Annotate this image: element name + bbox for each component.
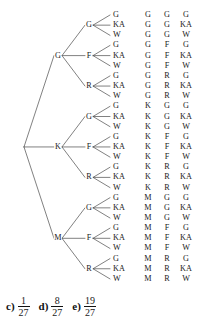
outcome-cell: KA xyxy=(180,204,192,212)
outcome-cell: G xyxy=(145,72,151,80)
outcome-cell: KA xyxy=(180,21,192,29)
outcome-cell: K xyxy=(145,112,151,120)
tree-leaf-label: W xyxy=(113,31,121,39)
outcome-cell: M xyxy=(144,204,151,212)
outcome-cell: G xyxy=(145,51,151,59)
outcome-cell: M xyxy=(144,194,151,202)
outcome-cell: F xyxy=(165,41,170,49)
outcome-cell: G xyxy=(164,123,170,131)
outcome-cell: F xyxy=(165,153,170,161)
outcome-cell: G xyxy=(164,194,170,202)
outcome-cell: F xyxy=(165,234,170,242)
outcome-cell: W xyxy=(182,275,190,283)
tree-leaf-label: KA xyxy=(113,173,125,181)
outcome-cell: G xyxy=(164,112,170,120)
tree-node-level1-1: K xyxy=(54,143,61,151)
outcome-cell: W xyxy=(182,214,190,222)
outcome-cell: K xyxy=(145,153,151,161)
outcome-cell: G xyxy=(145,41,151,49)
answer-choice-fraction: 1927 xyxy=(84,296,96,318)
outcome-cell: R xyxy=(164,183,169,191)
tree-node-level1-2: M xyxy=(54,234,62,242)
probability-tree-figure: GGFRKGFRMGFR GKAWGKAWGKAWGKAWGKAWGKAWGKA… xyxy=(0,0,202,296)
answer-choices-row: c)127d)827e)1927 xyxy=(0,293,202,320)
fraction-denominator: 27 xyxy=(18,307,30,318)
outcome-cell: M xyxy=(144,265,151,273)
outcome-cell: R xyxy=(164,254,169,262)
outcome-cell: F xyxy=(165,143,170,151)
tree-leaf-label: G xyxy=(113,224,119,232)
tree-leaf-label: KA xyxy=(113,143,125,151)
tree-node-level2-2-2: R xyxy=(86,265,93,273)
outcome-cell: R xyxy=(164,275,169,283)
tree-node-level2-0-1: F xyxy=(86,51,92,59)
outcome-cell: KA xyxy=(180,112,192,120)
tree-leaf-label: W xyxy=(113,214,121,222)
outcome-cell: G xyxy=(183,194,189,202)
tree-leaf-label: W xyxy=(113,62,121,70)
tree-leaf-label: W xyxy=(113,244,121,252)
tree-leaf-label: G xyxy=(113,102,119,110)
outcome-cell: M xyxy=(144,214,151,222)
outcome-cell: G xyxy=(183,102,189,110)
tree-node-level2-1-1: F xyxy=(86,143,92,151)
outcome-cell: R xyxy=(164,92,169,100)
outcome-cell: G xyxy=(164,21,170,29)
outcome-cell: W xyxy=(182,183,190,191)
tree-leaf-label: W xyxy=(113,183,121,191)
answer-choice-fraction: 127 xyxy=(18,296,30,318)
answer-choice-key: c) xyxy=(6,301,15,312)
outcome-cell: W xyxy=(182,123,190,131)
outcome-cell: W xyxy=(182,153,190,161)
outcome-cell: G xyxy=(183,41,189,49)
tree-leaf-label: KA xyxy=(113,112,125,120)
outcome-cell: F xyxy=(165,224,170,232)
tree-leaf-label: KA xyxy=(113,234,125,242)
tree-leaf-label: KA xyxy=(113,204,125,212)
tree-leaf-label: W xyxy=(113,92,121,100)
answer-choice-c[interactable]: c)127 xyxy=(6,296,30,318)
tree-leaf-label: G xyxy=(113,254,119,262)
outcome-cell: G xyxy=(183,224,189,232)
fraction-numerator: 1 xyxy=(20,296,27,307)
tree-leaf-label: KA xyxy=(113,51,125,59)
outcome-cell: R xyxy=(164,265,169,273)
outcome-cell: M xyxy=(144,275,151,283)
outcome-cell: G xyxy=(164,11,170,19)
outcome-cell: W xyxy=(182,92,190,100)
outcome-cell: G xyxy=(145,92,151,100)
outcome-cell: M xyxy=(144,254,151,262)
tree-node-level2-0-2: R xyxy=(86,82,93,90)
outcome-cell: F xyxy=(165,133,170,141)
outcome-cell: K xyxy=(145,123,151,131)
tree-leaf-label: W xyxy=(113,275,121,283)
outcome-cell: G xyxy=(164,204,170,212)
outcome-cell: G xyxy=(183,72,189,80)
answer-choice-fraction: 827 xyxy=(51,296,63,318)
tree-node-level2-2-1: F xyxy=(86,234,92,242)
outcome-cell: R xyxy=(164,163,169,171)
outcome-cell: G xyxy=(164,214,170,222)
tree-leaf-label: KA xyxy=(113,265,125,273)
tree-leaf-label: G xyxy=(113,163,119,171)
tree-leaf-label: W xyxy=(113,123,121,131)
tree-leaf-label: W xyxy=(113,153,121,161)
tree-leaf-label: KA xyxy=(113,82,125,90)
outcome-cell: KA xyxy=(180,265,192,273)
outcome-cell: KA xyxy=(180,51,192,59)
fraction-denominator: 27 xyxy=(84,307,96,318)
tree-node-level1-0: G xyxy=(54,51,61,59)
outcome-cell: G xyxy=(145,82,151,90)
outcome-cell: G xyxy=(183,163,189,171)
outcome-cell: G xyxy=(183,11,189,19)
outcome-cell: M xyxy=(144,224,151,232)
tree-leaf-label: G xyxy=(113,194,119,202)
fraction-denominator: 27 xyxy=(51,307,63,318)
answer-choice-e[interactable]: e)1927 xyxy=(72,296,96,318)
outcome-cell: R xyxy=(164,82,169,90)
answer-choice-key: d) xyxy=(39,301,49,312)
outcome-cell: F xyxy=(165,51,170,59)
answer-choice-key: e) xyxy=(72,301,81,312)
answer-choice-d[interactable]: d)827 xyxy=(39,296,64,318)
outcome-cell: K xyxy=(145,173,151,181)
